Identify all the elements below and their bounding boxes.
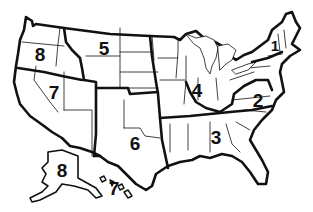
region-label-3: 3 [211, 127, 222, 148]
region-label-1: 1 [271, 37, 279, 54]
region-label-7: 7 [49, 82, 60, 103]
region-label-8: 8 [35, 44, 46, 65]
region-label-6: 6 [130, 133, 141, 154]
region-label-7-hawaii: 7 [109, 178, 120, 199]
region-label-2: 2 [253, 90, 264, 111]
region-label-8-alaska: 8 [57, 160, 68, 181]
region-label-4: 4 [192, 80, 203, 101]
region-label-5: 5 [99, 38, 110, 59]
us-region-map: 8 5 7 6 4 3 2 1 8 7 [0, 0, 313, 212]
